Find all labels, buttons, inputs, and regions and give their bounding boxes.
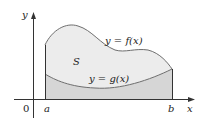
x-axis-label: x [187,103,193,114]
y-axis-label: y [21,9,28,20]
x-axis-arrow-icon [188,97,195,102]
region-s-label: S [73,56,80,67]
curve-f-label: y = f(x) [104,35,143,46]
bound-b-label: b [168,103,174,114]
y-axis-arrow-icon [31,12,36,19]
bound-a-label: a [44,103,50,114]
area-between-curves-diagram: y x 0 a b S y = f(x) y = g(x) [0,0,203,126]
curve-g-label: y = g(x) [88,73,129,84]
origin-label: 0 [23,103,29,114]
